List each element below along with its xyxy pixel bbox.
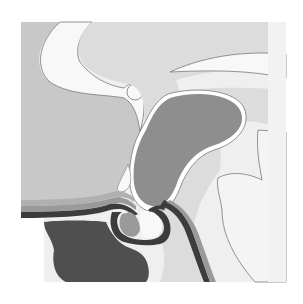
anatomical-diagram xyxy=(0,0,303,304)
right-margin-strip xyxy=(268,22,286,282)
diagram-canvas xyxy=(0,0,303,304)
lower-left-white xyxy=(21,218,44,282)
